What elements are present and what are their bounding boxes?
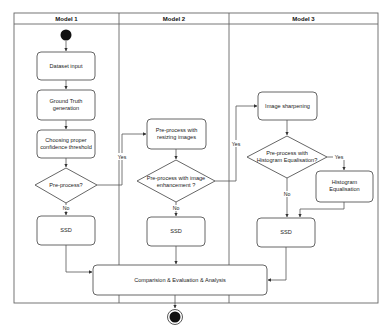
edge-label-yes-3: Yes	[335, 154, 344, 160]
svg-text:Pre-process with image: Pre-process with image	[147, 175, 205, 181]
svg-text:Dataset input: Dataset input	[50, 63, 83, 69]
node-ssd-1: SSD	[37, 216, 95, 245]
node-ground-truth: Ground Truth generation	[37, 90, 95, 120]
edge-label-yes-1: Yes	[118, 154, 127, 160]
svg-text:Ground Truth: Ground Truth	[50, 98, 83, 104]
svg-text:Image sharpening: Image sharpening	[265, 103, 310, 109]
node-histogram-equalisation: Histogram Equalisation	[316, 171, 373, 202]
svg-text:Comparision & Evaluation & Ana: Comparision & Evaluation & Analysis	[134, 277, 226, 283]
edge-histeq-ssd3	[300, 202, 344, 217]
node-ssd-2: SSD	[147, 217, 205, 246]
node-image-sharpening: Image sharpening	[258, 92, 317, 120]
edge-label-no-3: No	[284, 191, 291, 197]
edge-label-no-1: No	[63, 205, 70, 211]
node-resizing-images: Pre-process with resizing images	[147, 119, 206, 149]
svg-text:Choosing proper: Choosing proper	[45, 137, 86, 143]
end-node-icon	[168, 310, 183, 325]
node-comparison-evaluation-analysis: Comparision & Evaluation & Analysis	[93, 265, 267, 295]
decision-preprocess: Pre-process?	[35, 168, 97, 203]
svg-text:SSD: SSD	[60, 227, 72, 233]
node-dataset-input: Dataset input	[37, 52, 95, 80]
svg-text:enhancement ?: enhancement ?	[157, 182, 196, 188]
activity-diagram: Model 1 Model 2 Model 3 Yes No Yes No Ye…	[0, 0, 391, 334]
decision-histogram-equalisation: Pre-process with Histogram Equalisation?	[247, 136, 327, 178]
svg-text:SSD: SSD	[170, 228, 182, 234]
edge-ssd3-comparison	[268, 247, 286, 280]
decision-image-enhancement: Pre-process with image enhancement ?	[137, 160, 215, 202]
node-ssd-3: SSD	[257, 218, 315, 247]
svg-text:generation: generation	[53, 105, 79, 111]
start-node-icon	[61, 30, 72, 41]
svg-text:resizing images: resizing images	[157, 134, 196, 140]
svg-text:SSD: SSD	[280, 229, 292, 235]
edge-label-no-2: No	[173, 205, 180, 211]
svg-text:Histogram: Histogram	[332, 179, 358, 185]
svg-text:Pre-process with: Pre-process with	[266, 150, 308, 156]
edge-ssd1-comparison	[66, 245, 92, 272]
svg-text:Pre-process?: Pre-process?	[49, 182, 82, 188]
lane-title-model-3: Model 3	[292, 16, 315, 22]
edge-label-yes-2: Yes	[232, 141, 241, 147]
svg-text:Equalisation: Equalisation	[329, 186, 359, 192]
lane-title-model-2: Model 2	[163, 16, 186, 22]
svg-text:Histogram Equalisation?: Histogram Equalisation?	[257, 157, 318, 163]
lane-title-model-1: Model 1	[55, 16, 78, 22]
node-choosing-threshold: Choosing proper confidence threshold	[37, 130, 95, 158]
svg-text:Pre-process with: Pre-process with	[156, 127, 198, 133]
svg-text:confidence threshold: confidence threshold	[40, 144, 92, 150]
